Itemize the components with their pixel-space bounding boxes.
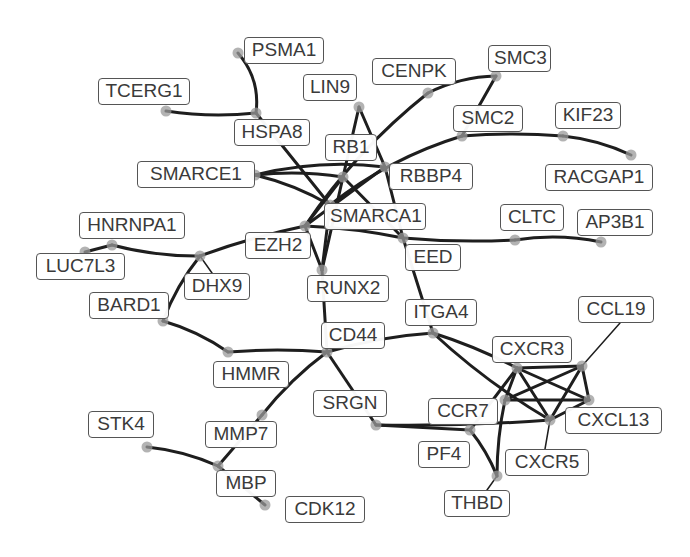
node-cenpk-dot[interactable] [423, 88, 434, 99]
edge-ccr7-thbd [497, 400, 505, 476]
node-eed-dot[interactable] [398, 233, 409, 244]
node-label-mbp[interactable]: MBP [216, 470, 276, 497]
node-label-ezh2[interactable]: EZH2 [245, 232, 311, 259]
node-label-lin9[interactable]: LIN9 [303, 74, 357, 101]
node-stk4-dot[interactable] [142, 442, 153, 453]
edge-stk4-mbp [147, 447, 218, 466]
edge-kif23-racgap1 [563, 136, 631, 155]
node-hmmr-dot[interactable] [223, 347, 234, 358]
node-cxcr5-dot[interactable] [545, 415, 556, 426]
node-label-smarca1[interactable]: SMARCA1 [324, 203, 426, 230]
node-label-ap3b1[interactable]: AP3B1 [577, 209, 653, 236]
node-ezh2-dot[interactable] [300, 221, 311, 232]
node-label-bard1[interactable]: BARD1 [89, 292, 169, 319]
node-runx2-dot[interactable] [317, 265, 328, 276]
node-srgn-dot[interactable] [371, 420, 382, 431]
node-label-cxcr5[interactable]: CXCR5 [505, 449, 589, 476]
node-label-smarce1[interactable]: SMARCE1 [137, 161, 255, 188]
node-label-itga4[interactable]: ITGA4 [405, 299, 477, 326]
edge-bard1-hmmr [163, 321, 228, 352]
node-label-dhx9[interactable]: DHX9 [184, 273, 250, 300]
node-label-hnrnpa1[interactable]: HNRNPA1 [79, 212, 185, 239]
node-label-rb1[interactable]: RB1 [325, 134, 377, 161]
node-smc3-dot[interactable] [491, 71, 502, 82]
node-psma1-dot[interactable] [233, 48, 244, 59]
edge-cltc-ap3b1 [515, 237, 601, 242]
node-label-cdk12[interactable]: CDK12 [285, 496, 365, 523]
node-ap3b1-dot[interactable] [596, 237, 607, 248]
node-label-hmmr[interactable]: HMMR [213, 361, 289, 388]
node-label-pf4[interactable]: PF4 [418, 441, 470, 468]
edge-hmmr-cd44 [228, 350, 327, 352]
node-label-eed[interactable]: EED [405, 244, 461, 271]
node-itga4-dot[interactable] [428, 328, 439, 339]
node-label-runx2[interactable]: RUNX2 [307, 275, 389, 302]
node-label-hspa8[interactable]: HSPA8 [234, 119, 310, 146]
node-label-ccr7[interactable]: CCR7 [428, 398, 498, 425]
node-kif23-dot[interactable] [558, 131, 569, 142]
edge-hnrnpa1-dhx9 [112, 245, 200, 256]
node-hnrnpa1-dot[interactable] [107, 240, 118, 251]
node-label-cenpk[interactable]: CENPK [372, 58, 456, 85]
node-label-smc2[interactable]: SMC2 [453, 105, 523, 132]
node-label-srgn[interactable]: SRGN [313, 390, 387, 417]
node-label-kif23[interactable]: KIF23 [555, 102, 621, 129]
node-cxcr3-dot[interactable] [512, 363, 523, 374]
node-label-smc3[interactable]: SMC3 [488, 45, 551, 72]
node-label-racgap1[interactable]: RACGAP1 [545, 164, 653, 191]
edge-smarce1-rb1 [255, 173, 343, 177]
node-rb1-dot[interactable] [338, 172, 349, 183]
node-cltc-dot[interactable] [510, 235, 521, 246]
edge-smc2-kif23 [462, 134, 563, 136]
node-label-stk4[interactable]: STK4 [88, 411, 154, 438]
node-lin9-dot[interactable] [354, 102, 365, 113]
node-hspa8-dot[interactable] [251, 108, 262, 119]
node-pf4-dot[interactable] [465, 425, 476, 436]
node-racgap1-dot[interactable] [626, 150, 637, 161]
edge-pf4-thbd [470, 430, 497, 476]
edge-tcerg1-hspa8 [166, 111, 256, 115]
node-label-rbbp4[interactable]: RBBP4 [389, 163, 473, 190]
edge-cxcr3-ccl19 [517, 366, 582, 368]
node-tcerg1-dot[interactable] [161, 106, 172, 117]
node-label-thbd[interactable]: THBD [444, 490, 510, 517]
node-cdk12-dot[interactable] [260, 500, 271, 511]
node-cxcl13-dot[interactable] [584, 395, 595, 406]
node-thbd-dot[interactable] [492, 471, 503, 482]
node-ccl19-dot[interactable] [577, 361, 588, 372]
node-label-cd44[interactable]: CD44 [321, 322, 385, 349]
node-label-mmp7[interactable]: MMP7 [205, 421, 277, 448]
edge-eed-cltc [403, 238, 515, 241]
node-dhx9-dot[interactable] [195, 251, 206, 262]
node-label-tcerg1[interactable]: TCERG1 [98, 78, 190, 105]
node-label-ccl19[interactable]: CCL19 [578, 296, 654, 323]
edge-ccl19-label-leader [582, 323, 620, 366]
node-label-psma1[interactable]: PSMA1 [244, 37, 324, 64]
node-label-cxcl13[interactable]: CXCL13 [565, 407, 662, 434]
node-label-cltc[interactable]: CLTC [500, 204, 564, 231]
node-label-luc7l3[interactable]: LUC7L3 [36, 253, 125, 280]
node-mmp7-dot[interactable] [257, 410, 268, 421]
node-label-cxcr3[interactable]: CXCR3 [492, 336, 572, 363]
node-ccr7-dot[interactable] [500, 395, 511, 406]
node-smc2-dot[interactable] [457, 131, 468, 142]
